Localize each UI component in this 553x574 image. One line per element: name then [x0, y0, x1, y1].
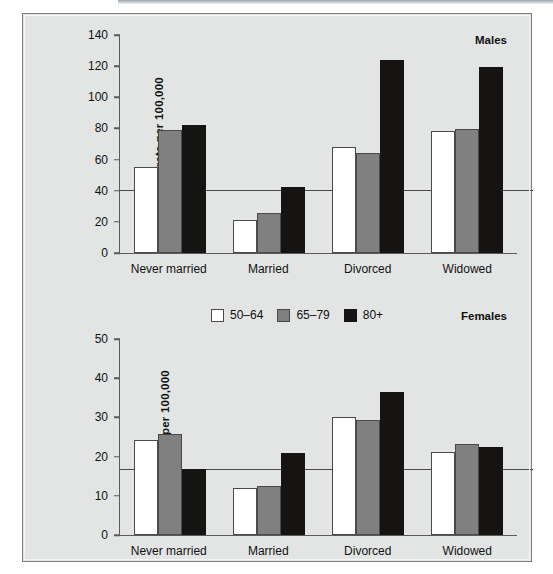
legend-swatch-65-79: [277, 309, 290, 322]
bars: [219, 36, 318, 253]
y-tick-label: 0: [101, 528, 108, 542]
bars: [319, 36, 418, 253]
bar-males-2-1[interactable]: [356, 153, 380, 253]
x-label-females-0: Never married: [119, 544, 219, 558]
panel-title-females: Females: [461, 310, 507, 322]
x-axis-labels-males: Never marriedMarriedDivorcedWidowed: [119, 262, 517, 276]
bar-females-3-1[interactable]: [455, 444, 479, 535]
y-tick-label: 60: [95, 153, 108, 167]
bar-group-males-3: [418, 36, 517, 253]
bars: [219, 340, 318, 535]
legend-swatch-80-plus: [344, 309, 357, 322]
panel-males: Males Suicide rate per 100,000 020406080…: [23, 18, 533, 290]
y-tick-label: 10: [95, 489, 108, 503]
bar-males-2-2[interactable]: [380, 60, 404, 253]
bars: [418, 340, 517, 535]
x-label-females-2: Divorced: [318, 544, 418, 558]
bar-females-1-2[interactable]: [281, 453, 305, 535]
chart-figure: Males Suicide rate per 100,000 020406080…: [22, 13, 532, 562]
bar-females-0-2[interactable]: [182, 469, 206, 535]
bars: [120, 36, 219, 253]
x-label-males-1: Married: [219, 262, 319, 276]
bar-females-1-0[interactable]: [233, 488, 257, 535]
y-tick-label: 40: [95, 371, 108, 385]
bar-males-3-1[interactable]: [455, 129, 479, 253]
y-tick-label: 0: [101, 246, 108, 260]
bar-males-1-1[interactable]: [257, 213, 281, 253]
bar-females-2-1[interactable]: [356, 420, 380, 535]
bar-group-females-1: [219, 340, 318, 535]
bar-males-0-0[interactable]: [134, 167, 158, 253]
x-axis-labels-females: Never marriedMarriedDivorcedWidowed: [119, 544, 517, 558]
bar-males-1-0[interactable]: [233, 220, 257, 253]
bar-females-1-1[interactable]: [257, 486, 281, 535]
bar-group-males-0: [120, 36, 219, 253]
y-tick-label: 20: [95, 450, 108, 464]
bar-females-0-0[interactable]: [134, 440, 158, 535]
bar-males-3-0[interactable]: [431, 131, 455, 253]
legend-label-2: 80+: [363, 308, 383, 322]
bar-group-males-1: [219, 36, 318, 253]
panel-females: Females 50–6465–7980+ Suicide rate per 1…: [23, 294, 533, 562]
figure-root: Males Suicide rate per 100,000 020406080…: [0, 0, 553, 574]
x-label-males-0: Never married: [119, 262, 219, 276]
bar-groups-males: [120, 36, 517, 253]
bar-females-2-2[interactable]: [380, 392, 404, 535]
legend-item-0[interactable]: 50–64: [211, 308, 263, 322]
bar-females-2-0[interactable]: [332, 417, 356, 535]
y-tick-label: 20: [95, 215, 108, 229]
y-tick-label: 40: [95, 184, 108, 198]
x-label-males-2: Divorced: [318, 262, 418, 276]
legend-item-2[interactable]: 80+: [344, 308, 383, 322]
y-tick-label: 50: [95, 332, 108, 346]
bar-group-females-0: [120, 340, 219, 535]
bar-males-0-2[interactable]: [182, 125, 206, 253]
x-label-males-3: Widowed: [418, 262, 518, 276]
plot-area-males: Suicide rate per 100,000 020406080100120…: [119, 36, 517, 254]
bar-groups-females: [120, 340, 517, 535]
legend-item-1[interactable]: 65–79: [277, 308, 329, 322]
page-top-band: [118, 0, 553, 4]
bars: [120, 340, 219, 535]
bar-males-0-1[interactable]: [158, 130, 182, 253]
x-label-females-3: Widowed: [418, 544, 518, 558]
legend-label-0: 50–64: [230, 308, 263, 322]
legend-swatch-50-64: [211, 309, 224, 322]
bar-group-females-2: [319, 340, 418, 535]
y-tick-label: 140: [88, 28, 108, 42]
bar-males-2-0[interactable]: [332, 147, 356, 253]
bar-males-1-2[interactable]: [281, 187, 305, 253]
y-tick-label: 30: [95, 410, 108, 424]
bar-males-3-2[interactable]: [479, 67, 503, 253]
y-tick-label: 100: [88, 90, 108, 104]
bars: [418, 36, 517, 253]
bar-group-males-2: [319, 36, 418, 253]
legend-label-1: 65–79: [296, 308, 329, 322]
bar-females-0-1[interactable]: [158, 434, 182, 535]
chart-legend: 50–6465–7980+: [211, 308, 383, 322]
plot-area-females: Suicide rate per 100,000 01020304050: [119, 340, 517, 536]
bar-group-females-3: [418, 340, 517, 535]
bars: [319, 340, 418, 535]
y-tick-label: 80: [95, 121, 108, 135]
y-tick-label: 120: [88, 59, 108, 73]
bar-females-3-0[interactable]: [431, 452, 455, 535]
bar-females-3-2[interactable]: [479, 447, 503, 535]
x-label-females-1: Married: [219, 544, 319, 558]
